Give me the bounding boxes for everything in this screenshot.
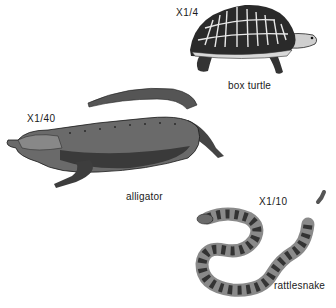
alligator-label: alligator [126,191,163,202]
alligator-scale: X1/40 [27,113,56,124]
turtle-shell [190,5,296,57]
box-turtle-scale: X1/4 [176,7,199,18]
alligator-head [18,135,62,150]
alligator-illustration [7,88,224,188]
rattlesnake-label: rattlesnake [274,280,325,291]
box-turtle-illustration [190,5,317,74]
box-turtle-label: box turtle [228,80,271,91]
alligator-tail [88,88,197,109]
figure-illustrations [0,0,336,308]
turtle-eye [311,37,314,40]
rattlesnake-body [202,214,308,290]
rattlesnake-tail [318,192,324,202]
rattlesnake-scale: X1/10 [259,196,288,207]
rattlesnake-head [197,214,213,224]
